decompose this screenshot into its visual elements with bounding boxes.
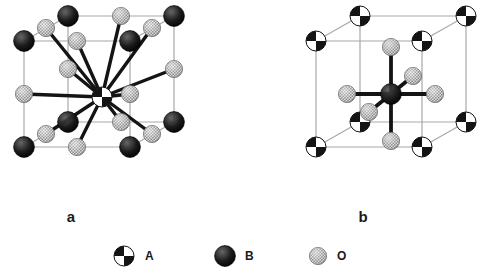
- atom-o-icon: [143, 19, 160, 36]
- legend-atom-o-icon: [309, 247, 326, 264]
- atom-o-icon: [68, 138, 85, 155]
- atom-b-icon: [14, 137, 35, 158]
- legend-label-o: O: [337, 249, 346, 263]
- atom-o-icon: [382, 38, 399, 55]
- atom-b-icon: [120, 31, 141, 52]
- legend-atom-a-icon: [114, 246, 134, 266]
- atom-o-icon: [143, 125, 160, 142]
- atom-a-icon: [412, 31, 432, 51]
- legend-label-a: A: [145, 249, 154, 263]
- atom-o-icon: [338, 85, 355, 102]
- atom-o-icon: [15, 85, 32, 102]
- center-atom-a-icon: [92, 87, 112, 107]
- atom-o-icon: [121, 85, 138, 102]
- panel-b: [306, 6, 476, 157]
- atom-a-icon: [456, 6, 476, 26]
- atom-o-icon: [112, 113, 129, 130]
- perovskite-structure-figure: [0, 0, 499, 278]
- atom-o-icon: [360, 103, 377, 120]
- atom-a-icon: [412, 137, 432, 157]
- atom-a-icon: [456, 112, 476, 132]
- panel-a: [14, 6, 185, 158]
- atom-b-icon: [58, 112, 79, 133]
- atom-b-icon: [164, 6, 185, 27]
- atom-o-icon: [165, 60, 182, 77]
- atom-o-icon: [404, 67, 421, 84]
- atom-o-icon: [59, 60, 76, 77]
- atom-b-icon: [58, 6, 79, 27]
- atom-o-icon: [426, 85, 443, 102]
- legend-label-b: B: [245, 249, 254, 263]
- atom-o-icon: [37, 19, 54, 36]
- atom-o-icon: [37, 125, 54, 142]
- center-atom-b-icon: [381, 84, 402, 105]
- atom-a-icon: [306, 137, 326, 157]
- atom-a-icon: [306, 31, 326, 51]
- atom-o-icon: [68, 32, 85, 49]
- atom-b-icon: [14, 31, 35, 52]
- legend-atom-b-icon: [215, 246, 236, 267]
- atom-o-icon: [112, 7, 129, 24]
- atom-b-icon: [120, 137, 141, 158]
- atom-b-icon: [164, 112, 185, 133]
- panel-b-label: b: [348, 208, 378, 225]
- atom-o-icon: [382, 132, 399, 149]
- atom-a-icon: [350, 6, 370, 26]
- panel-a-label: a: [56, 208, 86, 225]
- edge-oxygen-atoms-a: [15, 7, 182, 155]
